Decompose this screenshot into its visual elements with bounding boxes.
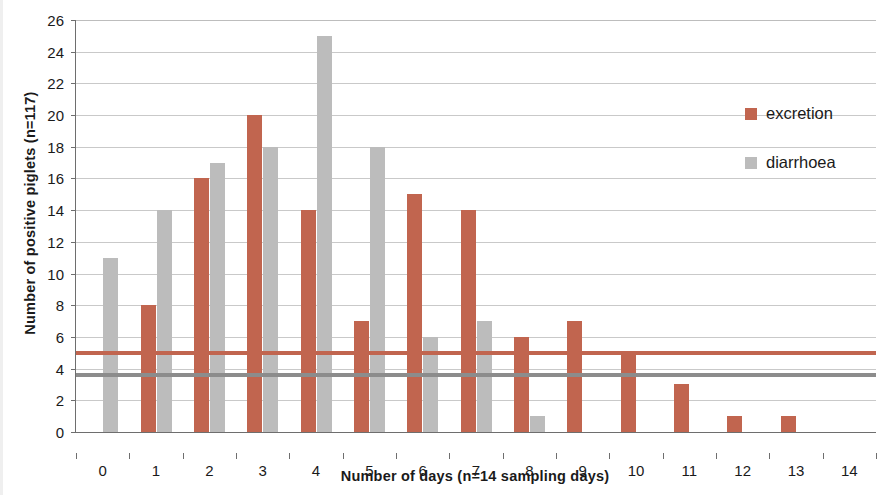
y-tick-label: 26	[12, 12, 64, 29]
x-tick-mark	[716, 453, 717, 459]
x-tick-mark	[503, 453, 504, 459]
bar-diarrhoea-day-2	[210, 163, 225, 432]
gridline	[76, 52, 876, 53]
bar-diarrhoea-day-3	[263, 147, 278, 432]
x-axis-title: Number of days (n=14 sampling days)	[75, 468, 875, 484]
excretion-trend-line	[76, 351, 876, 355]
y-tick-label: 14	[12, 202, 64, 219]
chart-legend: excretiondiarrhoea	[745, 104, 881, 202]
bar-diarrhoea-day-8	[530, 416, 545, 432]
y-tick-label: 12	[12, 233, 64, 250]
chart-figure: Number of positive piglets (n=117) 02468…	[0, 0, 881, 495]
legend-item-diarrhoea[interactable]: diarrhoea	[745, 153, 881, 172]
bar-excretion-day-4	[301, 210, 316, 432]
x-tick-mark	[289, 453, 290, 459]
bar-diarrhoea-day-0	[103, 258, 118, 432]
y-tick-label: 6	[12, 328, 64, 345]
legend-swatch-diarrhoea-icon	[745, 157, 757, 169]
gridline	[76, 20, 876, 21]
y-tick-mark	[71, 369, 76, 370]
diarrhoea-trend-line	[76, 373, 876, 377]
legend-label: excretion	[766, 104, 833, 123]
legend-swatch-excretion-icon	[745, 108, 757, 120]
y-tick-label: 2	[12, 392, 64, 409]
plot-area: 01234567891011121314	[75, 20, 876, 433]
bar-excretion-day-3	[247, 115, 262, 432]
y-tick-mark	[71, 274, 76, 275]
y-tick-mark	[71, 305, 76, 306]
x-tick-mark	[769, 453, 770, 459]
x-tick-mark	[236, 453, 237, 459]
y-tick-mark	[71, 242, 76, 243]
y-tick-label: 0	[12, 424, 64, 441]
y-tick-label: 16	[12, 170, 64, 187]
y-tick-label: 10	[12, 265, 64, 282]
bar-diarrhoea-day-1	[157, 210, 172, 432]
x-tick-mark	[663, 453, 664, 459]
gridline	[76, 83, 876, 84]
y-tick-label: 4	[12, 360, 64, 377]
x-tick-mark	[449, 453, 450, 459]
bar-excretion-day-13	[781, 416, 796, 432]
y-tick-mark	[71, 178, 76, 179]
scan-edge-artifact	[0, 0, 3, 495]
x-tick-mark	[396, 453, 397, 459]
bar-excretion-day-12	[727, 416, 742, 432]
x-tick-mark	[129, 453, 130, 459]
bar-excretion-day-2	[194, 178, 209, 432]
y-tick-label: 22	[12, 75, 64, 92]
x-tick-mark	[876, 453, 877, 459]
y-tick-label: 24	[12, 43, 64, 60]
legend-label: diarrhoea	[766, 153, 836, 172]
y-tick-mark	[71, 20, 76, 21]
bar-excretion-day-10	[621, 353, 636, 432]
y-tick-mark	[71, 83, 76, 84]
y-tick-mark	[71, 432, 76, 433]
y-tick-mark	[71, 400, 76, 401]
bar-excretion-day-1	[141, 305, 156, 432]
bar-diarrhoea-day-5	[370, 147, 385, 432]
x-tick-mark	[343, 453, 344, 459]
x-tick-mark	[556, 453, 557, 459]
y-tick-mark	[71, 210, 76, 211]
y-tick-label: 20	[12, 107, 64, 124]
x-tick-mark	[823, 453, 824, 459]
x-tick-mark	[183, 453, 184, 459]
y-tick-mark	[71, 337, 76, 338]
bar-excretion-day-11	[674, 384, 689, 432]
x-tick-mark	[76, 453, 77, 459]
bar-excretion-day-6	[407, 194, 422, 432]
bar-excretion-day-7	[461, 210, 476, 432]
x-tick-mark	[609, 453, 610, 459]
legend-item-excretion[interactable]: excretion	[745, 104, 881, 123]
y-tick-mark	[71, 115, 76, 116]
y-tick-label: 8	[12, 297, 64, 314]
y-tick-mark	[71, 52, 76, 53]
y-tick-mark	[71, 147, 76, 148]
y-tick-label: 18	[12, 138, 64, 155]
